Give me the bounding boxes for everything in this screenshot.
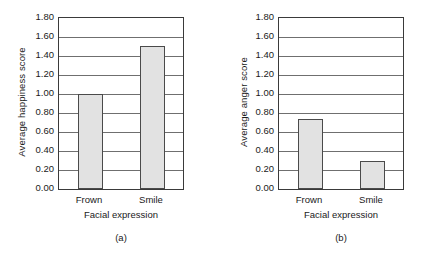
y-axis-tick-label: 0.80 [26, 107, 54, 117]
y-axis-tick-label: 0.40 [26, 145, 54, 155]
panel-caption: (a) [34, 231, 208, 244]
figure-two-bar-charts: Average happiness score 0.000.200.400.60… [0, 0, 439, 257]
plot-area [58, 17, 184, 190]
bar [360, 161, 385, 190]
x-axis-category-label: Smile [120, 193, 182, 206]
y-axis-tick-label: 1.60 [246, 31, 274, 41]
chart-panel-a: Average happiness score 0.000.200.400.60… [0, 0, 219, 257]
y-axis-tick-label: 1.80 [246, 12, 274, 22]
y-axis-tick-label: 0.20 [246, 164, 274, 174]
y-axis-tick-label: 1.20 [26, 69, 54, 79]
gridline [279, 113, 403, 114]
x-axis-title: Facial expression [254, 208, 428, 221]
y-axis-tick-labels: 0.000.200.400.600.801.001.201.401.601.80 [246, 12, 274, 192]
x-axis-category-label: Frown [58, 193, 120, 206]
y-axis-tick-label: 1.40 [246, 50, 274, 60]
bar [298, 119, 323, 189]
x-axis-category-labels: FrownSmile [278, 193, 404, 207]
y-axis-tick-label: 0.00 [246, 183, 274, 193]
y-axis-tick-label: 1.80 [26, 12, 54, 22]
gridline [279, 94, 403, 95]
gridline [279, 56, 403, 57]
y-axis-tick-label: 0.60 [246, 126, 274, 136]
x-axis-category-label: Smile [340, 193, 402, 206]
x-axis-category-labels: FrownSmile [58, 193, 184, 207]
x-axis-category-label: Frown [278, 193, 340, 206]
y-axis-tick-label: 0.80 [246, 107, 274, 117]
y-axis-tick-label: 0.60 [26, 126, 54, 136]
y-axis-tick-label: 0.00 [26, 183, 54, 193]
y-axis-tick-label: 1.40 [26, 50, 54, 60]
bar [140, 46, 165, 189]
y-axis-tick-label: 0.40 [246, 145, 274, 155]
y-axis-tick-label: 1.00 [26, 88, 54, 98]
y-axis-tick-label: 0.20 [26, 164, 54, 174]
y-axis-tick-labels: 0.000.200.400.600.801.001.201.401.601.80 [26, 12, 54, 192]
chart-panel-b: Average anger score 0.000.200.400.600.80… [220, 0, 439, 257]
panel-caption: (b) [254, 231, 428, 244]
x-axis-title: Facial expression [34, 208, 208, 221]
y-axis-tick-label: 1.60 [26, 31, 54, 41]
y-axis-tick-label: 1.20 [246, 69, 274, 79]
bar [78, 94, 103, 189]
y-axis-tick-label: 1.00 [246, 88, 274, 98]
gridline [59, 37, 183, 38]
plot-area [278, 17, 404, 190]
gridline [279, 37, 403, 38]
gridline [279, 75, 403, 76]
